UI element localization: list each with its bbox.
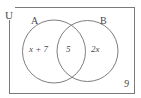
universal-set-label: U <box>5 10 13 21</box>
venn-diagram-figure: U A B x + 7 5 2x 9 <box>0 0 141 98</box>
region-b-only-value: 2x <box>91 45 100 54</box>
region-intersection-value: 5 <box>66 45 71 54</box>
set-a-label: A <box>31 16 38 26</box>
region-outside-value: 9 <box>124 79 129 89</box>
region-a-only-value: x + 7 <box>29 45 48 54</box>
universal-set-rectangle <box>9 7 134 93</box>
set-b-label: B <box>100 16 107 26</box>
